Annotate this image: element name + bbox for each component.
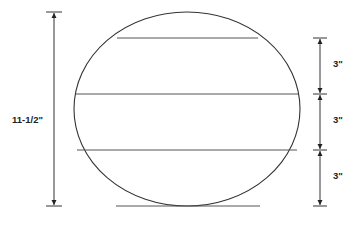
segment-dimension-label-2: 3": [333, 114, 343, 125]
segment-dimension-lines: [313, 38, 327, 206]
diagram-canvas: [0, 0, 356, 243]
overall-dimension-line: [46, 12, 62, 206]
segment-dimension-label-1: 3": [333, 58, 343, 69]
segment-dimension-label-3: 3": [333, 170, 343, 181]
overall-dimension-label: 11-1/2": [12, 114, 43, 125]
circle-outline: [74, 12, 300, 206]
